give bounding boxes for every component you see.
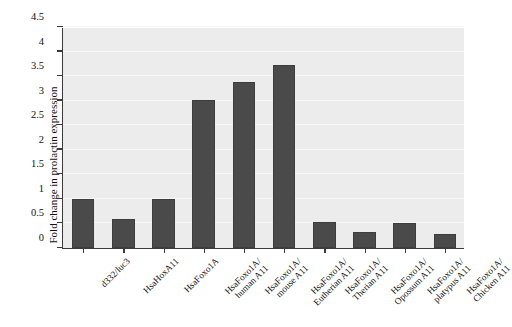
x-axis-tick-label-line: Chicken A11 bbox=[471, 263, 512, 304]
x-axis-tick-label-line: HsaHoxA11 bbox=[142, 256, 181, 295]
x-axis-tick-label-line: HsaFoxo1A/ bbox=[305, 256, 350, 301]
y-axis-tick bbox=[57, 173, 63, 174]
x-axis-tick-label: HsaFoxo1A/platypus A11 bbox=[424, 256, 473, 305]
x-axis-tick bbox=[365, 248, 366, 253]
y-axis-tick-label: 4.5 bbox=[31, 11, 44, 22]
gridline bbox=[63, 198, 464, 199]
y-axis-tick-label: 1.5 bbox=[31, 158, 44, 169]
y-axis-tick-label: 0.5 bbox=[31, 207, 44, 218]
bar bbox=[72, 199, 95, 248]
gridline bbox=[63, 26, 464, 27]
gridline bbox=[63, 75, 464, 76]
x-axis-tick bbox=[244, 248, 245, 253]
y-axis-tick-label: 4 bbox=[39, 35, 44, 46]
gridline bbox=[63, 173, 464, 174]
y-axis-tick-label: 2.5 bbox=[31, 109, 44, 120]
y-axis-tick-label: 2 bbox=[39, 133, 44, 144]
gridline bbox=[63, 51, 464, 52]
y-axis-tick bbox=[57, 99, 63, 100]
y-axis-tick bbox=[57, 222, 63, 223]
x-axis-tick-label-line: platypus A11 bbox=[431, 263, 472, 304]
x-axis-tick-label-line: HsaFoxo1A/ bbox=[263, 256, 303, 296]
y-axis-tick-label: 3 bbox=[39, 84, 44, 95]
x-axis-tick-label-line: HsaFoxo1A/ bbox=[424, 256, 465, 297]
x-axis-tick-label-line: Opossum A11 bbox=[392, 263, 436, 307]
x-axis-tick-label: HsaFoxo1A bbox=[182, 256, 221, 295]
y-axis-tick-label: 0 bbox=[39, 232, 44, 243]
x-axis-tick-label-line: Therian A11 bbox=[350, 263, 390, 303]
x-axis-tick-label: HsaFoxo1A/human A11 bbox=[222, 256, 270, 304]
y-axis-tick-label: 3.5 bbox=[31, 60, 44, 71]
x-axis-tick-label-line: HsaFoxo1A/ bbox=[343, 256, 383, 296]
x-axis-tick-label-line: HsaFoxo1A/ bbox=[222, 256, 262, 296]
y-axis-tick bbox=[57, 50, 63, 51]
x-axis-tick-label: HsaFoxo1A/Chicken A11 bbox=[464, 256, 512, 304]
x-axis-tick-label: HsaFoxo1A/mouse A11 bbox=[263, 256, 311, 304]
y-axis-title: Fold change in prolactin expression bbox=[44, 54, 62, 276]
x-axis-tick bbox=[204, 248, 205, 253]
x-axis-tick-label: HsaHoxA11 bbox=[142, 256, 181, 295]
y-axis-tick bbox=[57, 148, 63, 149]
x-axis-tick-label-line: HsaFoxo1A/ bbox=[385, 256, 429, 300]
plot-area: 00.511.522.533.544.5 bbox=[62, 28, 464, 249]
x-axis-tick-label-line: human A11 bbox=[230, 263, 270, 303]
bar bbox=[192, 100, 215, 248]
gridline bbox=[63, 124, 464, 125]
bar bbox=[273, 65, 296, 248]
y-axis-tick bbox=[57, 26, 63, 27]
x-axis-tick bbox=[123, 248, 124, 253]
x-axis-tick bbox=[164, 248, 165, 253]
x-axis-tick bbox=[284, 248, 285, 253]
bar bbox=[434, 234, 457, 248]
bar bbox=[233, 82, 256, 248]
y-axis-tick-label: 1 bbox=[39, 182, 44, 193]
bar bbox=[393, 223, 416, 248]
x-axis-tick-label: d332/luc3 bbox=[99, 256, 132, 289]
y-axis-tick bbox=[57, 75, 63, 76]
x-axis-tick-label: HsaFoxo1A/Eutherian A11 bbox=[305, 256, 357, 308]
x-axis-tick-label-line: mouse A11 bbox=[270, 263, 310, 303]
x-axis-tick-label-line: HsaFoxo1A bbox=[182, 256, 221, 295]
x-axis-tick-label-line: HsaFoxo1A/ bbox=[464, 256, 505, 297]
x-axis-tick bbox=[324, 248, 325, 253]
x-axis-tick-label-line: Eutherian A11 bbox=[312, 263, 357, 308]
x-axis-tick-label: HsaFoxo1A/Therian A11 bbox=[343, 256, 391, 304]
gridline bbox=[63, 149, 464, 150]
x-axis-tick bbox=[83, 248, 84, 253]
x-axis-tick bbox=[445, 248, 446, 253]
bar bbox=[112, 219, 135, 248]
bar bbox=[152, 199, 175, 248]
y-axis-tick bbox=[57, 198, 63, 199]
x-axis-tick bbox=[405, 248, 406, 253]
gridline bbox=[63, 100, 464, 101]
x-axis-tick-label-line: d332/luc3 bbox=[99, 256, 132, 289]
y-axis-tick bbox=[57, 124, 63, 125]
bar bbox=[313, 222, 336, 248]
x-axis-tick-label: HsaFoxo1A/Opossum A11 bbox=[385, 256, 436, 307]
bar bbox=[353, 232, 376, 248]
y-axis-tick bbox=[57, 247, 63, 248]
